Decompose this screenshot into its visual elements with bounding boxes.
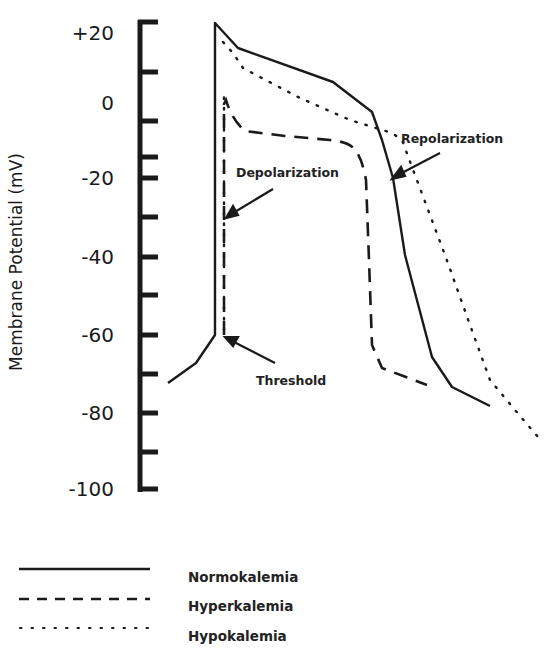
annotation-repolarization: Repolarization [401, 131, 503, 146]
y-tick-labels: +20 0 -20 -40 -60 -80 -100 [69, 21, 114, 501]
y-tick-label: -60 [81, 323, 114, 347]
y-tick-label: -40 [81, 245, 114, 269]
series-hyperkalemia [224, 100, 427, 385]
legend-label-hyperkalemia: Hyperkalemia [188, 598, 293, 614]
legend: Normokalemia Hyperkalemia Hypokalemia [19, 569, 298, 644]
annotation-arrows [225, 153, 440, 363]
legend-label-normokalemia: Normokalemia [188, 569, 298, 585]
y-tick-label: 0 [101, 91, 114, 115]
annotation-depolarization: Depolarization [236, 165, 339, 180]
y-tick-label: -100 [69, 477, 114, 501]
y-tick-label: +20 [72, 21, 114, 45]
y-tick-label: -20 [81, 166, 114, 190]
action-potential-chart: +20 0 -20 -40 -60 -80 -100 Membrane Pote… [0, 0, 552, 664]
series-normokalemia [168, 23, 490, 406]
arrowhead-repolarization [392, 167, 405, 179]
y-axis [138, 20, 158, 492]
y-axis-label: Membrane Potential (mV) [6, 153, 26, 371]
arrowhead-threshold [225, 337, 238, 346]
y-tick-label: -80 [81, 401, 114, 425]
legend-label-hypokalemia: Hypokalemia [188, 628, 287, 644]
annotation-threshold: Threshold [256, 373, 326, 388]
arrowhead-depolarization [226, 206, 238, 218]
